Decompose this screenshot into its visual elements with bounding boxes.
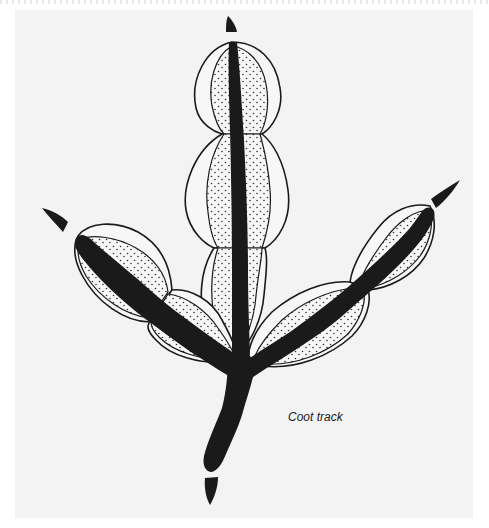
middle-claw-icon bbox=[226, 16, 237, 32]
hind-claw-icon bbox=[205, 477, 218, 505]
right-claw-icon bbox=[431, 180, 460, 208]
heel-bone bbox=[203, 356, 256, 472]
coot-track-illustration bbox=[0, 0, 489, 528]
left-claw-icon bbox=[42, 208, 68, 232]
figure-caption: Coot track bbox=[288, 410, 343, 424]
